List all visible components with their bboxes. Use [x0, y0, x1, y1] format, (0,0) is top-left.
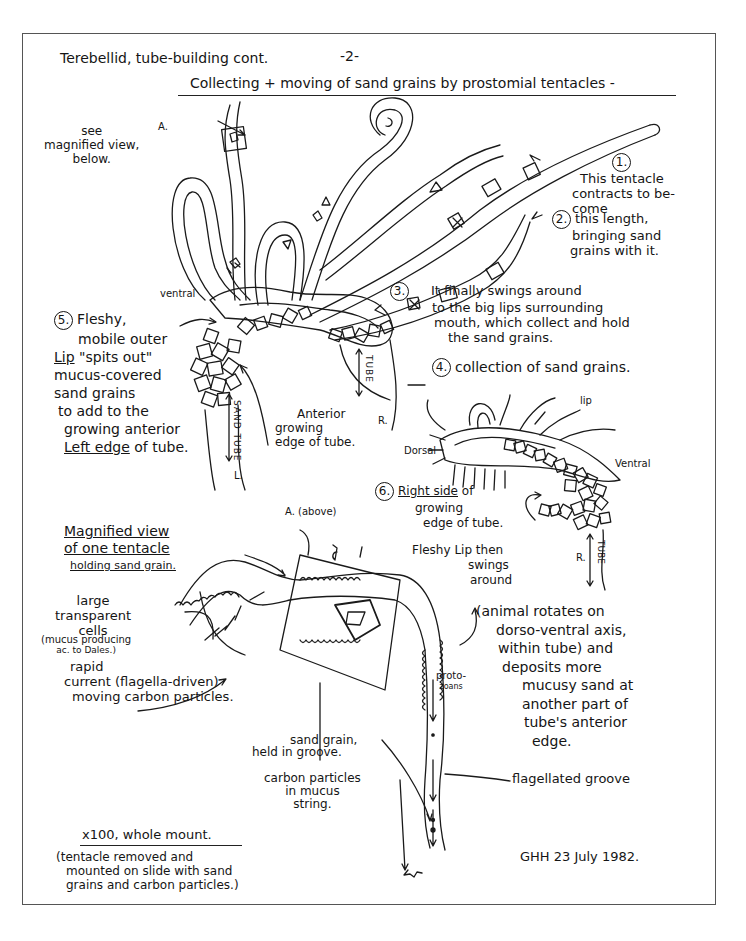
- step-1-note: 1. This tentacle contracts to be- come: [572, 153, 675, 217]
- mucus-note: (mucus producing ac. to Dales.): [41, 634, 131, 656]
- side-view-grains: [504, 439, 611, 529]
- tentacle-a: [222, 102, 247, 300]
- label-a-above: A. (above): [285, 506, 337, 518]
- step-2-marker: 2.: [552, 210, 571, 229]
- step-1-marker: 1.: [612, 153, 631, 172]
- large-cells-note: large transparent cells: [55, 593, 131, 638]
- label-a: A.: [158, 121, 168, 133]
- left-tube-end: L.: [234, 470, 243, 482]
- magnified-tentacle: [175, 545, 445, 877]
- mount-note: (tentacle removed and mounted on slide w…: [56, 850, 239, 892]
- label-dorsal: Dorsal: [404, 445, 436, 457]
- subtitle-underline: [178, 95, 676, 96]
- step-5-marker: 5.: [54, 311, 73, 330]
- mount-heading: x100, whole mount.: [82, 828, 212, 843]
- carbon-particles-label: carbon particles in mucus string.: [264, 772, 361, 811]
- step-4-note: 4.collection of sand grains.: [432, 358, 630, 377]
- rapid-current-note: rapid current (flagella-driven) moving c…: [64, 659, 234, 704]
- label-ventral-top: ventral: [160, 288, 195, 300]
- right-tube-end: R.: [378, 415, 388, 427]
- side-tube-label: TUBE: [596, 540, 606, 564]
- mount-heading-underline: [80, 845, 242, 846]
- page-title: Terebellid, tube-building cont.: [60, 50, 268, 66]
- anterior-edge-note: Anterior growing edge of tube.: [275, 407, 355, 449]
- magnified-heading: Magnified view of one tentacle holding s…: [64, 523, 176, 574]
- label-lip: lip: [580, 395, 592, 407]
- flagellated-groove-label: flagellated groove: [512, 772, 630, 787]
- step-2-note: 2.this length, bringing sand grains with…: [552, 210, 661, 259]
- step-5-note: 5.Fleshy, mobile outer Lip "spits out" m…: [54, 310, 189, 456]
- label-ventral-side: Ventral: [615, 458, 651, 470]
- step-3-marker: 3.: [390, 282, 409, 301]
- left-tube-label: SAND TUBE: [232, 400, 242, 462]
- signature-date: GHH 23 July 1982.: [520, 850, 639, 865]
- see-magnified-note: see magnified view, below.: [44, 125, 139, 166]
- protozoans-label: proto- zoans: [436, 670, 466, 692]
- step-6-note: 6.Right side of growing edge of tube.: [375, 482, 503, 531]
- right-tube-label: TUBE: [364, 355, 374, 383]
- rotation-note: (animal rotates on dorso-ventral axis, w…: [476, 602, 633, 750]
- sand-grain-label: sand grain, held in groove.: [252, 734, 357, 758]
- page-subtitle: Collecting + moving of sand grains by pr…: [190, 75, 615, 91]
- fleshy-lip-note: Fleshy Lip then swings around: [412, 543, 512, 588]
- step-4-marker: 4.: [432, 358, 451, 377]
- step-6-marker: 6.: [375, 482, 394, 501]
- page-number: -2-: [340, 48, 359, 64]
- step-3-note: 3.It finally swings around to the big li…: [390, 282, 630, 346]
- side-tube-end: R.: [576, 552, 586, 564]
- left-tube-grains: [191, 306, 312, 407]
